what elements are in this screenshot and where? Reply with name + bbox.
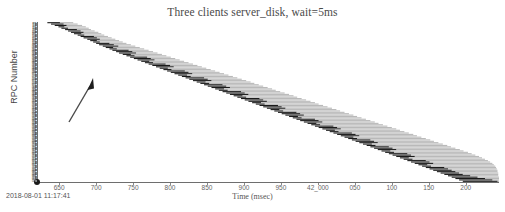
rpc-dark-segment [367,145,376,146]
rpc-light-segment [261,102,315,103]
x-tick-label: 800 [165,184,176,191]
rpc-dark-segment [444,174,462,175]
rpc-light-segment [97,37,112,38]
rpc-light-segment [304,115,354,116]
rpc-dark-segment [134,58,151,59]
rpc-light-segment [411,155,475,156]
rpc-dark-segment [211,87,229,88]
rpc-light-segment [376,145,448,146]
rpc-light-segment [228,90,276,91]
rpc-light-segment [285,108,332,109]
rpc-light-segment [396,149,460,150]
rpc-dark-segment [333,132,351,133]
rpc-light-segment [191,76,233,77]
rpc-light-segment [149,61,184,62]
rpc-light-segment [265,104,319,105]
rpc-light-segment [68,28,89,29]
rpc-light-segment [97,40,119,41]
rpc-dark-segment [126,55,134,56]
rpc-light-segment [320,124,383,125]
rpc-dark-segment [160,68,168,69]
rpc-light-segment [100,39,116,40]
rpc-dark-segment [223,91,241,92]
rpc-light-segment [245,92,285,93]
rpc-light-segment [427,164,494,165]
rpc-light-segment [209,83,254,84]
x-tick-label: 750 [128,184,139,191]
rpc-light-segment [370,139,430,140]
rpc-dark-segment [200,83,209,84]
rpc-dark-segment [404,159,413,160]
rpc-dark-segment [130,57,147,58]
rpc-dark-segment [400,157,409,158]
rpc-dark-segment [156,66,174,67]
rpc-light-segment [153,62,188,63]
chart-title: Three clients server_disk, wait=5ms [0,6,505,18]
rpc-dark-segment [381,150,390,151]
rpc-light-segment [415,156,479,157]
rpc-dark-segment [289,116,298,117]
rpc-light-segment [390,150,463,151]
rpc-dark-segment [109,48,116,49]
rpc-dark-segment [116,51,132,52]
rpc-light-segment [315,119,366,120]
rpc-dark-segment [171,72,189,73]
rpc-light-segment [211,80,246,81]
rpc-light-segment [302,117,362,118]
rpc-dark-segment [51,24,64,25]
rpc-light-segment [283,110,340,111]
rpc-light-segment [172,69,211,70]
rpc-light-segment [64,24,78,25]
rpc-dark-segment [455,178,485,179]
rpc-dark-segment [418,164,427,165]
rpc-dark-segment [241,98,259,99]
x-tick-label: 700 [91,184,102,191]
rpc-light-segment [372,144,443,145]
rpc-light-segment [278,105,323,106]
rpc-dark-segment [197,81,206,82]
rpc-dark-segment [356,141,374,142]
rpc-light-segment [433,163,492,164]
rpc-light-segment [300,113,349,114]
x-tick-label: 42_000 [307,184,329,191]
rpc-dark-segment [396,156,414,157]
rpc-light-segment [151,58,175,59]
rpc-dark-segment [112,50,128,51]
rpc-light-segment [374,141,434,142]
x-tick-label: 850 [202,184,213,191]
rpc-light-segment [444,167,496,168]
rpc-light-segment [243,95,294,96]
rpc-dark-segment [337,134,355,135]
rpc-light-segment [114,44,131,45]
rpc-light-segment [204,77,237,78]
x-axis-title: Time (msec) [0,192,505,201]
rpc-dark-segment [285,115,303,116]
rpc-dark-segment [389,153,407,154]
rpc-dark-segment [278,112,296,113]
rpc-light-segment [168,68,206,69]
rpc-light-segment [267,101,311,102]
rpc-light-segment [335,130,400,131]
rpc-light-segment [413,159,485,160]
rpc-light-segment [226,86,263,87]
rpc-light-segment [67,25,83,26]
rpc-dark-segment [452,177,478,178]
rpc-dark-segment [237,97,246,98]
rpc-dark-segment [378,149,396,150]
rpc-dark-segment [189,79,207,80]
rpc-light-segment [333,126,387,127]
rpc-light-segment [230,87,268,88]
rpc-light-segment [353,137,421,138]
rpc-light-segment [430,161,491,162]
rpc-dark-segment [119,52,136,53]
rpc-dark-segment [430,168,448,169]
x-tick-label: 150 [423,184,434,191]
rpc-light-segment [113,47,140,48]
rpc-dark-segment [300,120,318,121]
rpc-dark-segment [61,28,68,29]
rpc-light-segment [279,109,336,110]
rpc-dark-segment [441,172,459,173]
rpc-light-segment [117,48,144,49]
rpc-dark-segment [330,131,339,132]
rpc-dark-segment [267,108,285,109]
